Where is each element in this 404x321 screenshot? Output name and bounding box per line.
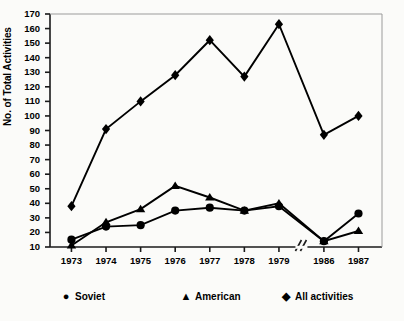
data-point [354, 111, 362, 121]
chart-figure: No. of Total Activities 1020304050607080… [0, 0, 404, 321]
diamond-marker-icon: ◆ [280, 290, 292, 302]
y-tick-label: 70 [14, 155, 40, 165]
data-point [274, 199, 283, 207]
legend-label-all-activities: All activities [292, 291, 353, 303]
axis-break-marker [295, 240, 307, 251]
y-tick-label: 90 [14, 126, 40, 136]
y-tick-label: 40 [14, 198, 40, 208]
legend-label-american: American [192, 291, 241, 303]
series-all-activities [67, 19, 362, 211]
chart-axes [45, 14, 382, 252]
legend-label-soviet: Soviet [72, 291, 105, 303]
y-tick-label: 60 [14, 169, 40, 179]
data-point [354, 227, 363, 235]
circle-marker-icon: ● [60, 290, 72, 302]
data-point [171, 206, 179, 214]
y-tick-label: 100 [14, 111, 40, 121]
y-tick-label: 170 [14, 9, 40, 19]
y-tick-label: 80 [14, 140, 40, 150]
series-american [67, 181, 363, 248]
legend-item-soviet: ●Soviet [60, 290, 105, 303]
data-point [206, 204, 214, 212]
data-point [137, 221, 145, 229]
x-tick-label: 1979 [259, 256, 299, 266]
legend-item-all-activities: ◆All activities [280, 290, 353, 303]
chart-legend: ●Soviet ▲American ◆All activities [0, 290, 404, 310]
data-point [354, 209, 362, 217]
data-point [137, 96, 145, 106]
y-tick-label: 120 [14, 82, 40, 92]
y-tick-label: 140 [14, 53, 40, 63]
chart-series-layer [67, 19, 363, 249]
data-point [67, 201, 75, 211]
y-tick-label: 30 [14, 213, 40, 223]
data-point [102, 124, 110, 134]
data-point [320, 130, 328, 140]
legend-item-american: ▲American [180, 290, 241, 303]
series-soviet [67, 202, 362, 245]
y-tick-label: 130 [14, 67, 40, 77]
y-tick-label: 10 [14, 242, 40, 252]
triangle-marker-icon: ▲ [180, 290, 192, 302]
y-tick-label: 20 [14, 227, 40, 237]
y-tick-label: 160 [14, 24, 40, 34]
y-tick-label: 150 [14, 38, 40, 48]
y-tick-label: 110 [14, 96, 40, 106]
data-point [170, 181, 179, 189]
x-tick-label: 1987 [338, 256, 378, 266]
chart-plot-area [0, 0, 404, 321]
y-tick-label: 50 [14, 184, 40, 194]
